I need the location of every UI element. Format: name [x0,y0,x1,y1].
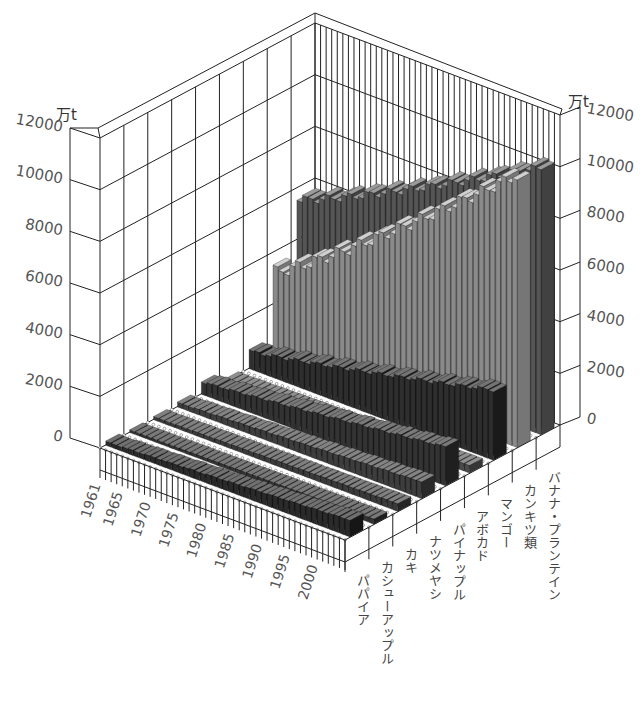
year-tick-label: 2000 [295,563,321,602]
category-label: カキ [403,548,418,574]
left-axis-tick-label: 4000 [24,318,65,342]
right-axis-tick-label: 2000 [585,358,626,382]
left-axis-tick-label: 0 [52,427,65,446]
year-tick-label: 1970 [128,500,154,539]
left-axis-tick-label: 2000 [24,370,65,394]
category-label: カンキツ類 [523,484,538,549]
category-label: カシューアップル [379,561,394,665]
right-axis-tick-label: 10000 [585,151,635,177]
category-label: アボカド [475,510,490,562]
year-tick-label: 1980 [183,521,209,560]
category-label: マンゴー [499,497,514,549]
left-axis-tick-label: 6000 [24,267,65,291]
year-tick-label: 1975 [155,510,181,549]
year-tick-label: 1965 [100,489,126,528]
right-axis-tick-label: 8000 [585,203,626,227]
left-axis-tick-label: 10000 [14,162,64,188]
year-tick-label: 1990 [239,542,265,581]
year-tick-label: 1961 [77,481,103,520]
category-label: ナツメヤシ [427,535,442,600]
category-label: パイナップル [451,523,466,601]
category-label: バナナ・プランテイン [547,471,562,601]
3d-bar-chart: 万t 万t 1200010000800060004000200001200010… [0,0,640,713]
right-axis-tick-label: 6000 [585,254,626,278]
left-axis-tick-label: 8000 [24,215,65,239]
year-tick-label: 1985 [211,531,237,570]
right-axis-tick-label: 4000 [585,306,626,330]
right-axis-tick-label: 12000 [585,99,635,125]
right-axis-tick-label: 0 [585,409,598,428]
year-tick-label: 1995 [267,552,293,591]
category-label: パパイア [355,574,370,626]
